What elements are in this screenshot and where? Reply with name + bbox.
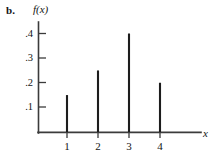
x-tick-label-2: 2 — [91, 140, 105, 152]
x-tick-label-4: 4 — [153, 140, 167, 152]
y-tick-label-1: .1 — [17, 101, 33, 112]
spike-group — [67, 34, 160, 133]
x-tick-label-1: 1 — [60, 140, 74, 152]
figure-panel: b. f(x) x .4 .3 .2 .1 — [0, 0, 216, 165]
y-tick-label-3: .3 — [17, 52, 33, 63]
y-tick-label-4: .4 — [17, 28, 33, 39]
y-tick-label-2: .2 — [17, 77, 33, 88]
x-tick-label-3: 3 — [122, 140, 136, 152]
y-tick-marks — [39, 34, 46, 108]
